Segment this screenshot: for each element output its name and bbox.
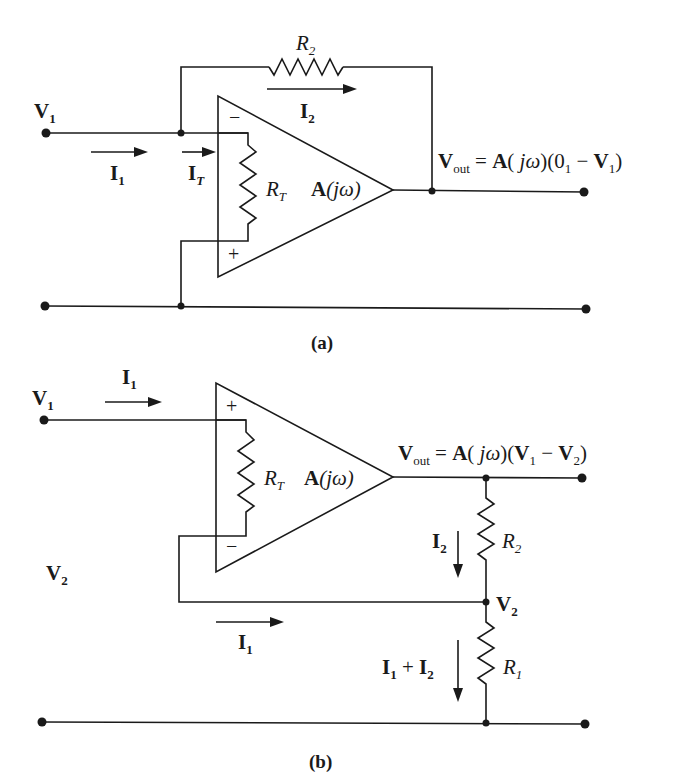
op-amp-triangle — [218, 96, 393, 277]
return-i1-arrow-head-icon — [270, 617, 284, 627]
ground-terminal-left-a — [41, 302, 50, 311]
noninverting-input-sign: + — [228, 243, 239, 265]
caption-b: (b) — [309, 751, 332, 773]
i1-arrow-head-icon — [134, 147, 148, 157]
panel-b: V1 I1 + − RT A(jω) V2 I1 Vout = A( jω)(V… — [32, 365, 590, 773]
inverting-input-sign-b: − — [226, 535, 237, 557]
feedback-resistor-r2 — [269, 59, 343, 75]
sum-current-arrow-head-icon — [453, 688, 463, 702]
resistor-r2-b — [478, 478, 494, 602]
r2-label-b: R2 — [501, 529, 522, 556]
it-arrow-head-icon — [202, 147, 216, 157]
i1-label: I1 — [110, 161, 125, 188]
panel-a: R2 I2 V1 I1 IT − + RT A(jω) Vout = A( jω… — [34, 31, 622, 354]
inverting-input-sign: − — [229, 106, 240, 128]
output-equation-b: Vout = A( jω)(V1 − V2) — [398, 441, 587, 468]
internal-resistor-rt-b — [216, 420, 254, 536]
resistor-r1-b — [478, 602, 494, 720]
ground-junction-a — [178, 303, 185, 310]
v2-right-label: V2 — [496, 592, 518, 619]
return-i1-label: I1 — [238, 630, 253, 657]
i2-label: I2 — [300, 99, 315, 126]
v1-label: V1 — [34, 99, 56, 126]
output-terminal-b — [578, 474, 587, 483]
caption-a: (a) — [311, 332, 333, 354]
v2-left-label: V2 — [46, 561, 68, 588]
r1-label-b: R1 — [502, 655, 522, 682]
internal-resistor-rt — [218, 133, 256, 241]
output-junction — [429, 188, 436, 195]
ground-rail-b — [42, 722, 586, 724]
i2-arrow-head-icon-b — [453, 564, 463, 578]
gain-label-b: A(jω) — [304, 466, 354, 490]
op-amp-circuit-figure: R2 I2 V1 I1 IT − + RT A(jω) Vout = A( jω… — [0, 0, 684, 781]
input-terminal-v1 — [42, 129, 51, 138]
output-wire — [393, 190, 585, 192]
ground-terminal-right-a — [582, 305, 591, 314]
rt-label-b: RT — [263, 466, 285, 493]
feedback-wire-right — [343, 67, 432, 190]
output-terminal — [580, 188, 589, 197]
noninverting-wire — [181, 241, 218, 306]
i2-label-b: I2 — [432, 529, 447, 556]
noninverting-input-sign-b: + — [226, 395, 237, 417]
ground-rail-a — [45, 306, 586, 309]
rt-label: RT — [265, 177, 287, 204]
i1-arrow-head-icon-b — [148, 397, 162, 407]
r2-label: R2 — [295, 31, 316, 58]
i2-arrow-head-icon — [343, 84, 357, 94]
ground-junction-b — [483, 720, 490, 727]
sum-current-label: I1 + I2 — [382, 655, 434, 682]
gain-label: A(jω) — [311, 177, 361, 201]
output-equation-a: Vout = A( jω)(01 − V1) — [438, 149, 622, 176]
ground-terminal-right-b — [581, 720, 590, 729]
it-label: IT — [188, 161, 205, 188]
ground-terminal-left-b — [38, 718, 47, 727]
i1-label-b: I1 — [122, 365, 137, 392]
v1-label-b: V1 — [32, 386, 54, 413]
